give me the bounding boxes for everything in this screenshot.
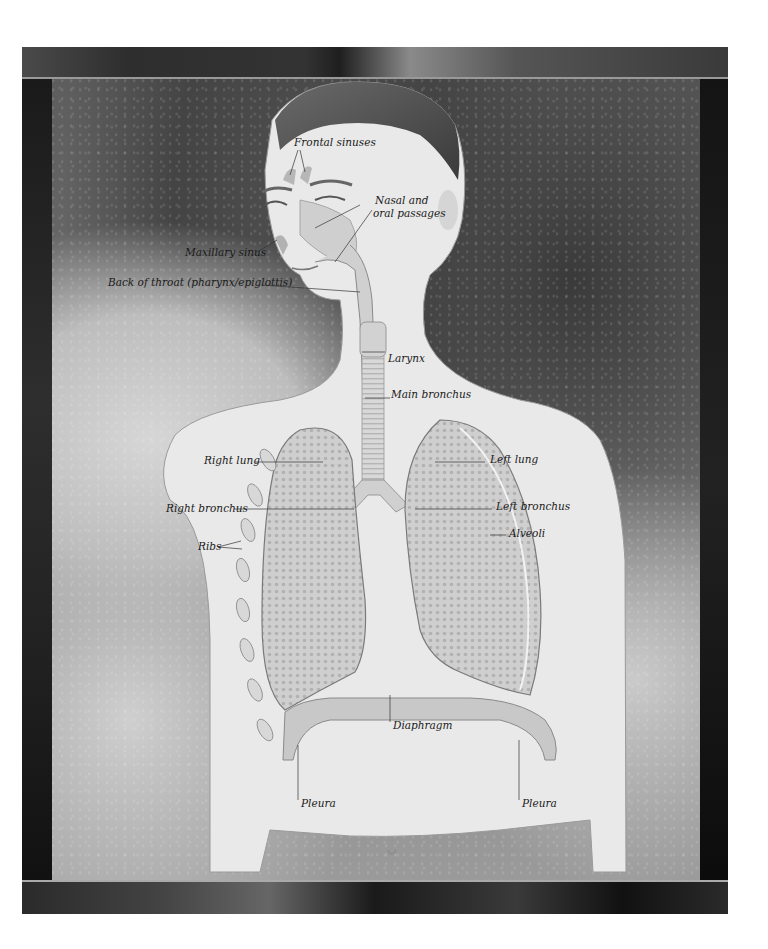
label-alveoli: Alveoli	[509, 527, 545, 539]
label-back-of-throat: Back of throat (pharynx/epiglottis)	[108, 276, 292, 288]
label-pleura-left: Pleura	[301, 797, 336, 809]
label-right-bronchus: Right bronchus	[166, 502, 248, 514]
label-pleura-right: Pleura	[522, 797, 557, 809]
label-right-lung: Right lung	[204, 454, 260, 466]
anatomy-figure	[0, 0, 768, 949]
label-larynx: Larynx	[388, 352, 425, 364]
right-lung-shape	[262, 428, 366, 710]
navel	[388, 850, 396, 854]
label-main-bronchus: Main bronchus	[391, 388, 471, 400]
label-left-bronchus: Left bronchus	[496, 500, 570, 512]
label-diaphragm: Diaphragm	[393, 719, 452, 731]
label-left-lung: Left lung	[490, 453, 538, 465]
label-frontal-sinuses: Frontal sinuses	[294, 136, 376, 148]
label-nasal-oral-line1: Nasal and	[375, 194, 429, 206]
label-ribs: Ribs	[198, 540, 221, 552]
label-maxillary-sinus: Maxillary sinus	[185, 246, 266, 258]
trachea	[362, 335, 384, 485]
label-nasal-oral-line2: oral passages	[373, 207, 446, 219]
